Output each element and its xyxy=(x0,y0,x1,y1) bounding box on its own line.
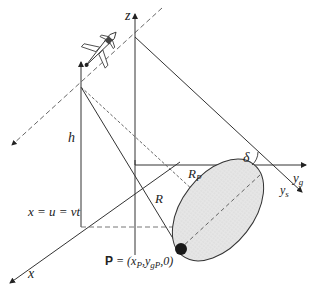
flight-path-line xyxy=(12,8,162,145)
aircraft-icon xyxy=(73,21,128,77)
ys-label: ys xyxy=(279,183,289,199)
z-label: z xyxy=(124,8,131,23)
position-eq-label: x = u = vt xyxy=(27,204,81,219)
slant-range-line xyxy=(81,87,180,250)
delta-label: δ xyxy=(243,150,250,165)
h-label: h xyxy=(68,130,75,145)
yg-label: yg xyxy=(291,170,304,187)
sar-geometry-diagram: z h x x = u = vt R RP δ yg ys P = (xP,yg… xyxy=(0,0,312,290)
r-label: R xyxy=(154,191,163,206)
x-label: x xyxy=(27,266,35,281)
delta-arc xyxy=(252,152,258,165)
rp-label: RP xyxy=(187,166,202,183)
target-point xyxy=(175,243,187,255)
point-eq-label: P = (xP,ygP,0) xyxy=(105,254,173,270)
